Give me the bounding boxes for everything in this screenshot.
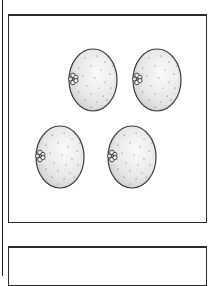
orange-icon [69,49,118,111]
orange-icon [133,49,182,111]
orange-icon [36,126,85,188]
orange-icon [108,126,157,188]
